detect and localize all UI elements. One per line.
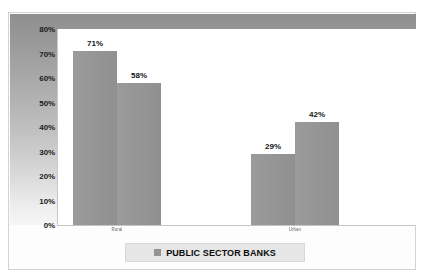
bar-urban-2 <box>295 122 339 225</box>
bar-value-label: 42% <box>295 110 339 119</box>
bar-urban-1 <box>251 154 295 225</box>
bar-value-label: 58% <box>117 71 161 80</box>
bar-value-label: 71% <box>73 39 117 48</box>
chart-title-cropped: CHART NO. 4 AWARENESS LEVELS OF BANK SCH… <box>62 0 362 4</box>
bar-rural-2 <box>117 83 161 225</box>
y-tick-label: 10% <box>15 197 55 206</box>
legend: PUBLIC SECTOR BANKS <box>125 243 305 262</box>
x-tick-label-rural: Rural <box>95 227 139 234</box>
chart-page: CHART NO. 4 AWARENESS LEVELS OF BANK SCH… <box>0 0 424 279</box>
y-tick-label: 80% <box>15 25 55 34</box>
y-tick-label: 40% <box>15 123 55 132</box>
y-tick-label: 50% <box>15 99 55 108</box>
x-tick-label-urban: Urban <box>273 227 317 234</box>
y-tick-label: 60% <box>15 74 55 83</box>
y-axis: 80% 70% 60% 50% 40% 30% 20% 10% 0% <box>11 29 55 225</box>
y-tick-label: 30% <box>15 148 55 157</box>
bar-value-label: 29% <box>251 142 295 151</box>
y-tick-label: 20% <box>15 172 55 181</box>
y-tick-label: 70% <box>15 50 55 59</box>
bar-rural-1 <box>73 51 117 225</box>
y-tick-label: 0% <box>15 221 55 230</box>
legend-swatch-icon <box>154 249 161 256</box>
chart-title-text: CHART NO. 4 AWARENESS LEVELS OF BANK SCH… <box>62 0 362 2</box>
chart-frame: 80% 70% 60% 50% 40% 30% 20% 10% 0% 71% 5… <box>8 12 416 270</box>
legend-label: PUBLIC SECTOR BANKS <box>166 248 276 258</box>
